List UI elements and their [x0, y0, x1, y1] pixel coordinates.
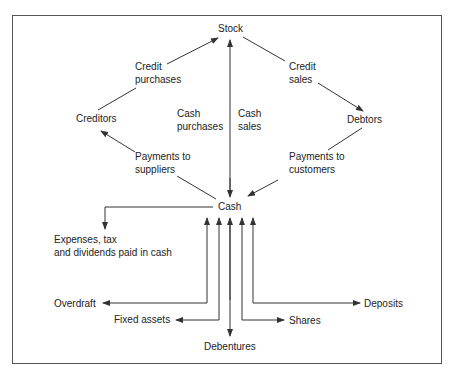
edge-cash-sales-l2: sales [238, 120, 261, 133]
node-cash: Cash [218, 200, 241, 213]
node-deposits: Deposits [364, 297, 403, 310]
edge-credit-sales-l1: Credit [289, 60, 316, 73]
node-expenses-l1: Expenses, tax [54, 233, 117, 246]
node-expenses-l2: and dividends paid in cash [54, 246, 172, 259]
node-debtors: Debtors [347, 113, 382, 126]
node-stock: Stock [218, 22, 243, 35]
node-shares: Shares [289, 314, 321, 327]
edge-credit-purchases-l1: Credit [135, 60, 162, 73]
edge-credit-sales-l2: sales [289, 73, 312, 86]
node-creditors: Creditors [76, 112, 117, 125]
edge-credit-purchases-l2: purchases [135, 73, 181, 86]
node-debentures: Debentures [204, 340, 256, 353]
edge-payments-customers-l1: Payments to [289, 150, 345, 163]
edge-payments-suppliers-l1: Payments to [135, 150, 191, 163]
edge-cash-purchases-l2: purchases [177, 120, 223, 133]
diagram-arrows [0, 0, 455, 372]
edge-cash-purchases-l1: Cash [177, 107, 200, 120]
edge-payments-suppliers-l2: suppliers [135, 163, 175, 176]
node-overdraft: Overdraft [54, 297, 96, 310]
node-fixed-assets: Fixed assets [114, 313, 170, 326]
edge-payments-customers-l2: customers [289, 163, 335, 176]
edge-cash-sales-l1: Cash [238, 107, 261, 120]
